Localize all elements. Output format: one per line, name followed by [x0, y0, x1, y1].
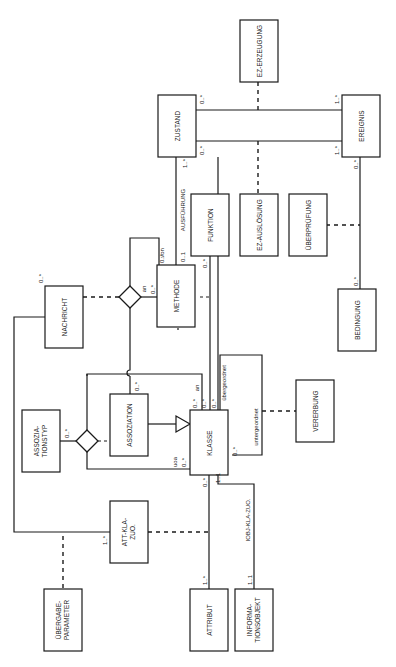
mult-klasse-ueber: 0..*: [211, 398, 217, 408]
mult-funktion-klasse: 0..*: [202, 258, 208, 268]
entity-ereignis: EREIGNIS: [342, 95, 380, 157]
assoziationstyp-label-2: TIONSTYP: [41, 425, 48, 458]
mult-zustand-ausfuehrung: 1..*: [182, 158, 188, 168]
mult-klasse-uoa: 0..*: [181, 457, 187, 467]
nachricht-label: NACHRICHT: [61, 298, 68, 337]
mult-klasse-unter: 0..*: [232, 446, 238, 456]
assoziationstyp-label-1: ASSOZIA-: [33, 426, 40, 457]
entity-attribut: ATTRIBUT: [190, 589, 228, 651]
entity-assoziationstyp: ASSOZIA- TIONSTYP: [22, 410, 60, 472]
entity-ez-erzeugung: EZ-ERZEUGUNG: [240, 20, 278, 82]
mult-attribut: 1..*: [202, 575, 208, 585]
mult-informationsobjekt: 1..1: [247, 574, 253, 585]
entity-ez-ausloesung: EZ-AUSLÖSUNG: [240, 194, 278, 256]
mult-ereignis-top: 1..*: [334, 94, 340, 104]
ez-ausloesung-label: EZ-AUSLÖSUNG: [256, 199, 263, 251]
funktion-label: FUNKTION: [207, 208, 214, 242]
mult-ereignis-bedingung: 0..*: [353, 159, 359, 169]
entity-funktion: FUNKTION: [191, 194, 229, 256]
generalization-arrow: [176, 416, 190, 432]
nachricht-association-diamond: [119, 286, 141, 308]
methode-label: METHODE: [173, 280, 180, 313]
entity-nachricht: NACHRICHT: [45, 286, 83, 348]
vererbung-label: VERERBUNG: [312, 390, 319, 431]
role-untergeordnet: untergeordnet: [253, 408, 259, 446]
mult-zustand-bottom: 0..*: [199, 145, 205, 155]
mult-zustand-top: 0..*: [199, 94, 205, 104]
zustand-label: ZUSTAND: [174, 111, 181, 142]
role-ausfuehrung: AUSFÜHRUNG: [180, 189, 186, 232]
attribut-label: ATTRIBUT: [206, 604, 213, 636]
entity-informationsobjekt: INFORMA- TIONSOBJEKT: [235, 589, 273, 651]
ereignis-label: EREIGNIS: [358, 110, 365, 141]
role-an-methode: an: [141, 286, 147, 293]
att-kla-zuo-label-2: ZUO.: [129, 524, 136, 540]
entity-uebergabeparameter: ÜBERGABE- PARAMETER: [44, 589, 82, 651]
mult-klasse-attribut: 0..*: [202, 477, 208, 487]
mult-nachricht: 0..*: [38, 273, 44, 283]
uml-class-diagram: EZ-ERZEUGUNG ZUSTAND EREIGNIS FUNKTION E…: [0, 0, 396, 667]
bedingung-label: BEDINGUNG: [354, 300, 361, 340]
informationsobjekt-label-1: INFORMA-: [246, 604, 253, 636]
att-kla-zuo-label-1: ATT-KLA-: [121, 518, 128, 546]
entity-assoziation: ASSOZIATION: [110, 394, 148, 456]
mult-methode-an: 0..*: [150, 284, 156, 294]
entity-att-kla-zuo: ATT-KLA- ZUO.: [110, 501, 148, 563]
mult-assoziationstyp: 0..*: [64, 428, 70, 438]
uebergabe-label-2: PARAMETER: [63, 600, 70, 640]
uebergabe-label-1: ÜBERGABE-: [55, 601, 62, 640]
role-uoa: uoa: [172, 456, 178, 467]
methode-von-assoc: [130, 238, 159, 286]
entity-ueberpruefung: ÜBERPRÜFUNG: [289, 194, 327, 256]
assoziationstyp-association-diamond: [76, 430, 98, 452]
ueberpruefung-label: ÜBERPRÜFUNG: [305, 200, 312, 250]
ez-erzeugung-label: EZ-ERZEUGUNG: [256, 25, 263, 77]
entity-klasse: KLASSE: [190, 410, 228, 475]
diamond-klasse-assoc: [127, 308, 130, 376]
role-an-klasse: an: [194, 385, 200, 392]
mult-klasse-iobj: 1..1: [215, 472, 221, 483]
informationsobjekt-label-2: TIONSOBJEKT: [254, 597, 261, 643]
entity-zustand: ZUSTAND: [158, 95, 196, 157]
entity-methode: METHODE: [157, 265, 195, 327]
mult-klasse-methode: 0..*: [201, 398, 207, 408]
mult-bedingung: 0..*: [353, 276, 359, 286]
mult-klasse-an: 0..*: [192, 398, 198, 408]
mult-ereignis-bottom: 1..*: [334, 145, 340, 155]
mult-att-kla-zuo: 1..*: [102, 535, 108, 545]
mult-assoziation: 0..*: [134, 381, 140, 391]
entity-bedingung: BEDINGUNG: [338, 289, 376, 351]
assoziation-label: ASSOZIATION: [126, 403, 133, 447]
entity-vererbung: VERERBUNG: [296, 380, 334, 442]
mult-methode-von: 0..*: [159, 253, 165, 263]
mult-methode-ausfuehrung: 0..1: [180, 251, 186, 262]
role-uebergeordnet: übergeordnet: [221, 365, 227, 401]
role-iobj-kla-zuo: IOBJ-KLA-ZUO.: [245, 498, 251, 541]
klasse-label: KLASSE: [206, 430, 213, 455]
